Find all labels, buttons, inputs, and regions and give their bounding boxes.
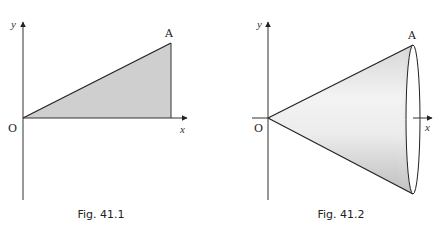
- cone-shade: [268, 45, 420, 194]
- origin-label: O: [8, 122, 17, 135]
- y-axis-label: y: [256, 18, 262, 30]
- x-axis-label: x: [424, 121, 430, 133]
- cone-base-ellipse: [406, 45, 420, 194]
- origin-label: O: [254, 122, 263, 135]
- x-axis-label: x: [179, 123, 185, 135]
- figure-caption: Fig. 41.1: [77, 208, 124, 221]
- diagram-canvas: y x O A Fig. 41.1 y x O A Fig. 41.2: [0, 0, 438, 225]
- figure-caption: Fig. 41.2: [317, 208, 364, 221]
- point-a-label: A: [407, 29, 417, 42]
- figure-41-1: y x O A Fig. 41.1: [8, 18, 187, 221]
- y-axis-label: y: [10, 18, 16, 30]
- point-a-label: A: [164, 27, 174, 40]
- figure-41-2: y x O A Fig. 41.2: [252, 18, 432, 221]
